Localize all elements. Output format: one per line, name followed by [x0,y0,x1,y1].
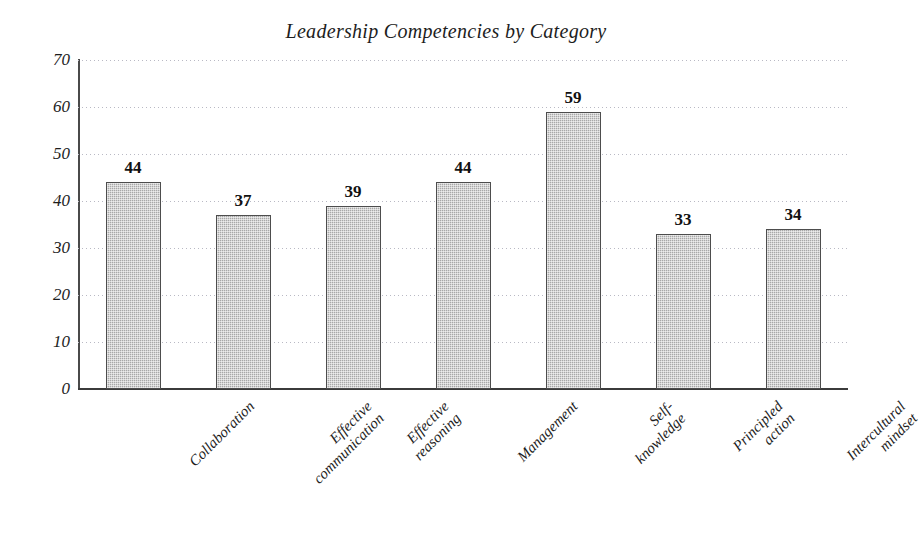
y-tick-label-30: 30 [24,238,70,258]
y-tick-label-70: 70 [24,50,70,70]
gridline-60 [78,107,848,108]
x-category-label: Intercultural mindset [843,398,921,476]
x-category-label: Effective communication [298,398,387,487]
bar-value-label: 39 [313,182,393,202]
y-axis-tick-labels: 010203040506070 [12,60,70,389]
bar [766,229,821,389]
y-tick-label-60: 60 [24,97,70,117]
y-tick-label-10: 10 [24,332,70,352]
bar [106,182,161,389]
bar-value-label: 59 [533,88,613,108]
x-category-label: Effective reasoning [398,398,464,464]
bar [656,234,711,389]
x-category-label: Management [514,398,581,465]
bar-value-label: 33 [643,210,723,230]
y-tick-label-20: 20 [24,285,70,305]
bar [326,206,381,389]
x-category-label: Collaboration [186,398,258,470]
x-category-label: Self- knowledge [620,398,689,467]
bar [546,112,601,389]
bar [216,215,271,389]
x-category-label: Principled action [730,398,799,467]
bar-value-label: 44 [423,158,503,178]
y-tick-label-0: 0 [24,379,70,399]
gridline-70 [78,60,848,61]
bar [436,182,491,389]
y-tick-label-40: 40 [24,191,70,211]
gridline-50 [78,154,848,155]
y-tick-label-50: 50 [24,144,70,164]
plot-area: 44373944593334 [78,60,848,389]
bar-value-label: 44 [93,158,173,178]
chart-title: Leadership Competencies by Category [0,20,892,43]
bar-value-label: 34 [753,205,833,225]
bar-value-label: 37 [203,191,283,211]
